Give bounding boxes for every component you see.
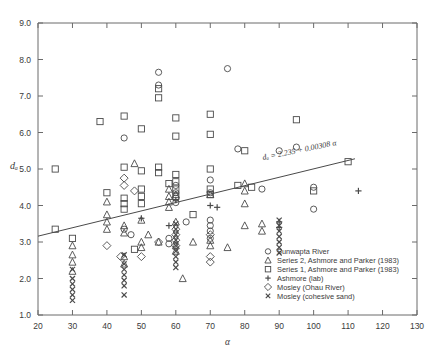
circle-marker <box>121 135 127 141</box>
triangle-marker <box>258 220 265 227</box>
legend-label: Series 1, Ashmore and Parker (1983) <box>277 265 399 274</box>
x-axis-label: α <box>225 337 231 347</box>
square-marker <box>293 117 299 123</box>
square-marker <box>207 166 213 172</box>
legend-label: Sunwapta River <box>277 247 330 256</box>
square-marker <box>69 235 75 241</box>
scatter-plot: 1.02.03.04.05.06.07.08.09.02030405060708… <box>0 0 444 350</box>
square-marker <box>207 131 213 137</box>
triangle-marker <box>69 251 76 258</box>
regression-equation: dₐ = 2.235 + 0.00308 α <box>262 138 338 162</box>
series-2 <box>52 86 351 253</box>
circle-marker <box>155 82 161 88</box>
circle-marker <box>265 249 270 254</box>
square-marker <box>173 179 179 185</box>
triangle-marker <box>179 275 186 282</box>
square-marker <box>173 133 179 139</box>
square-marker <box>138 168 144 174</box>
square-marker <box>190 212 196 218</box>
triangle-marker <box>103 226 110 233</box>
triangle-marker <box>103 211 110 218</box>
diamond-marker <box>130 187 138 195</box>
y-tick-label: 2.0 <box>19 274 31 284</box>
diamond-marker <box>206 258 214 266</box>
triangle-marker <box>103 198 110 205</box>
square-marker <box>138 126 144 132</box>
diamond-marker <box>103 242 111 250</box>
y-tick-label: 3.0 <box>19 237 31 247</box>
legend-label: Mosley (Ohau River) <box>277 283 345 292</box>
square-marker <box>97 118 103 124</box>
circle-marker <box>128 232 134 238</box>
triangle-marker <box>258 227 265 234</box>
square-marker <box>121 113 127 119</box>
triangle-marker <box>241 222 248 229</box>
chart-figure: 1.02.03.04.05.06.07.08.09.02030405060708… <box>0 0 444 350</box>
y-tick-label: 4.0 <box>19 201 31 211</box>
x-tick-label: 80 <box>240 321 250 331</box>
square-marker <box>207 111 213 117</box>
y-axis-label: dₐ <box>10 160 18 171</box>
diamond-marker <box>137 253 145 261</box>
svg-text:dₐ: dₐ <box>10 160 18 171</box>
x-tick-label: 60 <box>171 321 181 331</box>
x-tick-label: 130 <box>410 321 424 331</box>
triangle-marker <box>145 231 152 238</box>
square-marker <box>52 166 58 172</box>
y-tick-label: 6.0 <box>19 128 31 138</box>
square-marker <box>311 188 317 194</box>
circle-marker <box>173 182 179 188</box>
y-tick-label: 8.0 <box>19 55 31 65</box>
square-marker <box>138 193 144 199</box>
x-tick-label: 100 <box>307 321 321 331</box>
square-marker <box>155 86 161 92</box>
legend: Sunwapta RiverSeries 2, Ashmore and Park… <box>264 247 399 301</box>
circle-marker <box>155 69 161 75</box>
x-tick-label: 120 <box>375 321 389 331</box>
triangle-marker <box>190 238 197 245</box>
triangle-marker <box>241 187 248 194</box>
legend-label: Mosley (cohesive sand) <box>277 292 355 301</box>
square-marker <box>155 95 161 101</box>
series-4 <box>103 174 214 266</box>
triangle-marker <box>69 258 76 265</box>
square-marker <box>242 148 248 154</box>
circle-marker <box>224 66 230 72</box>
circle-marker <box>235 146 241 152</box>
triangle-marker <box>131 160 138 167</box>
circle-marker <box>311 206 317 212</box>
square-marker <box>265 267 270 272</box>
legend-label: Series 2, Ashmore and Parker (1983) <box>277 256 399 265</box>
legend-label: Ashmore (lab) <box>277 274 323 283</box>
circle-marker <box>311 184 317 190</box>
series-1 <box>69 160 266 282</box>
x-tick-label: 20 <box>33 321 43 331</box>
square-marker <box>138 201 144 207</box>
y-tick-label: 7.0 <box>19 91 31 101</box>
triangle-marker <box>241 200 248 207</box>
square-marker <box>121 164 127 170</box>
x-tick-label: 50 <box>137 321 147 331</box>
square-marker <box>104 190 110 196</box>
y-tick-label: 9.0 <box>19 18 31 28</box>
square-marker <box>131 246 137 252</box>
x-tick-label: 90 <box>274 321 284 331</box>
x-tick-label: 110 <box>341 321 355 331</box>
diamond-marker <box>206 253 214 261</box>
square-marker <box>173 171 179 177</box>
triangle-marker <box>69 242 76 249</box>
x-tick-label: 30 <box>68 321 78 331</box>
y-tick-label: 1.0 <box>19 310 31 320</box>
triangle-marker <box>69 268 76 275</box>
x-tick-label: 70 <box>206 321 216 331</box>
x-tick-label: 40 <box>102 321 112 331</box>
square-marker <box>249 184 255 190</box>
square-marker <box>173 115 179 121</box>
circle-marker <box>259 186 265 192</box>
svg-text:dₐ = 2.235 + 0.00308 α: dₐ = 2.235 + 0.00308 α <box>262 138 338 162</box>
diamond-marker <box>264 283 271 290</box>
triangle-marker <box>265 257 271 263</box>
regression-line <box>38 159 355 236</box>
circle-marker <box>207 177 213 183</box>
y-tick-label: 5.0 <box>19 164 31 174</box>
